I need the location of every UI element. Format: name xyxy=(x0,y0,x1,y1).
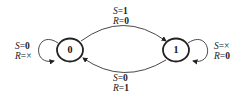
loop-0-s-label: S=0 xyxy=(15,41,30,51)
transition-1-0-s-label: S=0 xyxy=(113,73,128,83)
s-var: S xyxy=(214,41,219,51)
r-value: 1 xyxy=(124,83,129,93)
r-value: 0 xyxy=(225,51,230,61)
self-loop-0 xyxy=(39,39,58,61)
r-value: × xyxy=(26,51,31,61)
transition-0-1-s-label: S=1 xyxy=(113,6,128,16)
s-var: S xyxy=(113,6,118,16)
r-var: R xyxy=(113,83,119,93)
r-var: R xyxy=(15,51,21,61)
loop-1-s-label: S=× xyxy=(214,41,229,51)
transition-0-1-r-label: R=0 xyxy=(113,16,129,26)
s-value: × xyxy=(224,41,229,51)
transition-1-0-r-label: R=1 xyxy=(113,83,129,93)
r-var: R xyxy=(113,16,119,26)
s-var: S xyxy=(15,41,20,51)
state-0-label: 0 xyxy=(60,44,80,55)
r-value: 0 xyxy=(124,16,129,26)
self-loop-1 xyxy=(188,39,208,61)
transition-1-to-0 xyxy=(83,58,166,73)
s-value: 1 xyxy=(123,6,128,16)
r-var: R xyxy=(214,51,220,61)
state-1-label: 1 xyxy=(166,44,186,55)
transition-0-to-1 xyxy=(81,26,166,42)
loop-0-r-label: R=× xyxy=(15,51,32,61)
s-var: S xyxy=(113,73,118,83)
loop-1-r-label: R=0 xyxy=(214,51,230,61)
state-diagram: 0 1 S=1 R=0 S=0 R=1 S=0 R=× S=× R=0 xyxy=(0,0,243,101)
s-value: 0 xyxy=(25,41,30,51)
s-value: 0 xyxy=(123,73,128,83)
